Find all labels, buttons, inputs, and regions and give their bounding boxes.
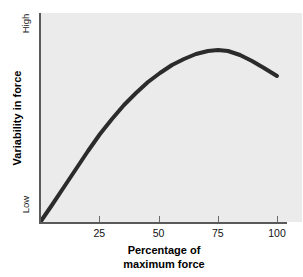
- x-axis-title-line-1: Percentage of: [40, 244, 288, 258]
- y-axis-tick-label-high: High: [20, 11, 31, 37]
- x-axis-tick-mark: [218, 216, 219, 222]
- x-axis-tick-label-50: 50: [139, 227, 179, 239]
- x-axis-title: Percentage of maximum force: [40, 244, 288, 271]
- x-axis-tick-label-100: 100: [257, 227, 297, 239]
- data-curve-line: [41, 50, 277, 221]
- x-axis-line: [39, 222, 287, 224]
- y-axis-tick-label-low: Low: [20, 193, 31, 217]
- chart-figure: High Low Variability in force 255075100 …: [0, 0, 303, 277]
- y-axis-line: [39, 13, 41, 223]
- x-axis-tick-mark: [277, 216, 278, 222]
- x-axis-title-line-2: maximum force: [40, 258, 288, 272]
- x-axis-tick-mark: [99, 216, 100, 222]
- y-axis-title: Variability in force: [11, 63, 23, 173]
- x-axis-tick-label-75: 75: [198, 227, 238, 239]
- x-axis-tick-label-25: 25: [79, 227, 119, 239]
- x-axis-tick-mark: [159, 216, 160, 222]
